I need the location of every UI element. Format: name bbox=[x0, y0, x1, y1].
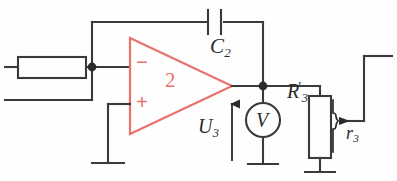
resistor-r3-prime-label: R′3 bbox=[287, 80, 308, 104]
circuit-diagram-canvas: C2 U3 R′3 r3 − + 2 V bbox=[0, 0, 397, 181]
voltmeter-label: V bbox=[256, 110, 268, 130]
output-voltage-label: U3 bbox=[198, 116, 219, 139]
wiper-r3-label: r3 bbox=[346, 124, 359, 145]
potentiometer-body bbox=[309, 96, 331, 158]
input-resistor-body bbox=[18, 57, 86, 78]
brace-r3 bbox=[333, 100, 338, 152]
junction-inverting-node bbox=[88, 63, 97, 72]
opamp-designator-label: 2 bbox=[165, 70, 176, 91]
junction-output-node bbox=[259, 82, 268, 91]
opamp-noninverting-label: + bbox=[136, 92, 148, 113]
schematic-svg bbox=[0, 0, 397, 181]
opamp-inverting-label: − bbox=[136, 52, 148, 73]
capacitor-c2-label: C2 bbox=[210, 36, 231, 59]
